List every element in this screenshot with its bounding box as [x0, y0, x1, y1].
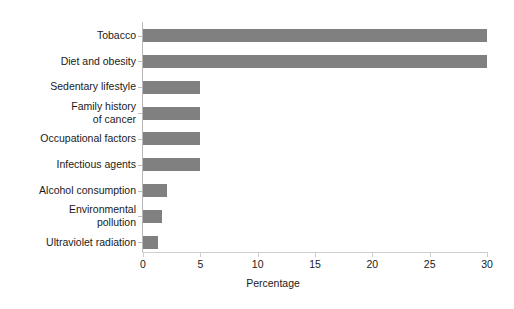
- category-label: Alcohol consumption: [2, 184, 136, 197]
- bar: [143, 55, 487, 68]
- x-axis-tick: [487, 253, 488, 257]
- bar: [143, 29, 487, 42]
- bar: [143, 210, 162, 223]
- x-axis-title: Percentage: [0, 277, 514, 289]
- category-label: Sedentary lifestyle: [2, 80, 136, 93]
- y-axis-tick: [138, 216, 142, 217]
- x-axis-tick: [372, 253, 373, 257]
- y-axis-tick: [138, 191, 142, 192]
- y-axis-tick: [138, 87, 142, 88]
- x-axis-tick-label: 20: [357, 258, 387, 270]
- y-axis-tick: [138, 242, 142, 243]
- x-axis-tick: [430, 253, 431, 257]
- category-label: Family history of cancer: [2, 100, 136, 125]
- category-label: Ultraviolet radiation: [2, 236, 136, 249]
- bar: [143, 132, 200, 145]
- category-label: Tobacco: [2, 29, 136, 42]
- x-axis-tick-label: 5: [185, 258, 215, 270]
- x-axis-tick: [143, 253, 144, 257]
- plot-area: [143, 22, 487, 253]
- category-label: Infectious agents: [2, 158, 136, 171]
- bar: [143, 158, 200, 171]
- x-axis-tick: [258, 253, 259, 257]
- bar: [143, 107, 200, 120]
- x-axis-tick-label: 25: [415, 258, 445, 270]
- x-axis-tick-label: 0: [128, 258, 158, 270]
- bar: [143, 236, 158, 249]
- bar-chart: TobaccoDiet and obesitySedentary lifesty…: [0, 0, 514, 309]
- category-label: Occupational factors: [2, 132, 136, 145]
- y-axis-tick: [138, 165, 142, 166]
- y-axis-tick: [138, 139, 142, 140]
- y-axis-tick: [138, 36, 142, 37]
- x-axis-tick: [200, 253, 201, 257]
- category-label: Environmental pollution: [2, 203, 136, 228]
- x-axis-title-text: Percentage: [246, 277, 300, 289]
- bar: [143, 81, 200, 94]
- y-axis-tick: [138, 113, 142, 114]
- bar: [143, 184, 167, 197]
- category-label: Diet and obesity: [2, 55, 136, 68]
- x-axis-tick: [315, 253, 316, 257]
- y-axis-tick: [138, 61, 142, 62]
- x-axis-tick-label: 10: [243, 258, 273, 270]
- x-axis-tick-label: 15: [300, 258, 330, 270]
- x-axis-tick-label: 30: [472, 258, 502, 270]
- category-axis-labels: TobaccoDiet and obesitySedentary lifesty…: [0, 0, 136, 253]
